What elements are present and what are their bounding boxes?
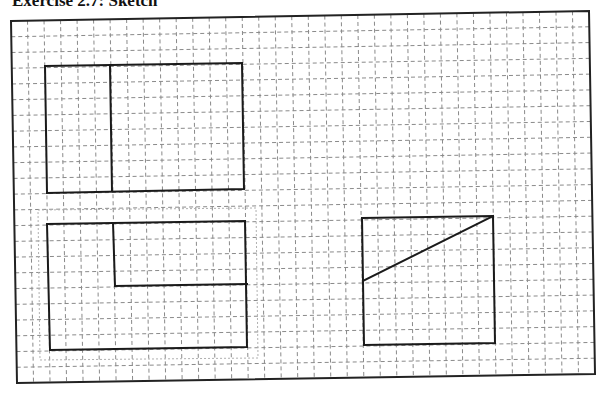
- grid-line-vertical: [473, 13, 479, 376]
- grid-line-horizontal: [14, 169, 592, 179]
- grid-line-horizontal: [15, 279, 593, 288]
- grid-line-horizontal: [12, 74, 590, 84]
- grid-line-vertical: [209, 18, 215, 380]
- grid-line-vertical: [374, 15, 380, 378]
- grid-line-horizontal: [17, 358, 595, 367]
- grid-line-vertical: [572, 11, 578, 374]
- grid-line-vertical: [160, 18, 166, 380]
- grid-line-vertical: [457, 13, 463, 376]
- grid-line-horizontal: [13, 153, 591, 163]
- grid-line-vertical: [440, 14, 446, 377]
- grid-line-horizontal: [13, 121, 591, 131]
- grid-line-horizontal: [16, 311, 594, 320]
- dashed-grid: [11, 11, 594, 382]
- shape-inner-line: [110, 65, 112, 191]
- grid-line-horizontal: [15, 232, 593, 241]
- grid-line-vertical: [556, 12, 562, 375]
- grid-line-horizontal: [12, 90, 590, 100]
- grid-line-vertical: [226, 17, 232, 379]
- grid-line-horizontal: [13, 137, 591, 147]
- grid-line-vertical: [176, 18, 182, 380]
- grid-line-vertical: [28, 21, 34, 383]
- grid-line-vertical: [539, 12, 545, 375]
- shape-inner-line: [113, 223, 115, 286]
- grid-line-vertical: [61, 20, 67, 382]
- grid-line-vertical: [523, 12, 529, 375]
- grid-line-vertical: [308, 16, 314, 379]
- grid-line-vertical: [259, 17, 265, 379]
- grid-line-horizontal: [12, 58, 590, 68]
- grid-line-horizontal: [14, 200, 592, 209]
- grid-line-vertical: [391, 14, 397, 377]
- grid-line-horizontal: [16, 327, 594, 336]
- grid-line-vertical: [325, 16, 331, 379]
- grid-line-horizontal: [14, 216, 592, 225]
- grid-line-vertical: [424, 14, 430, 377]
- grid-line-vertical: [407, 14, 413, 377]
- grid-line-horizontal: [12, 43, 590, 53]
- grid-line-vertical: [77, 20, 83, 382]
- grid-line-vertical: [506, 12, 512, 375]
- grid-line-horizontal: [16, 295, 594, 304]
- grid-line-vertical: [341, 15, 347, 378]
- shapes-layer: [38, 63, 495, 360]
- grid-line-vertical: [94, 20, 100, 382]
- shape-inner-line: [115, 284, 247, 286]
- grid-line-vertical: [292, 16, 298, 378]
- grid-line-vertical: [127, 19, 133, 381]
- grid-line-horizontal: [13, 106, 591, 116]
- grid-line-vertical: [275, 16, 281, 378]
- grid-line-horizontal: [15, 264, 593, 273]
- shape-inner-line: [363, 216, 493, 281]
- grid-sheet: [0, 0, 605, 396]
- grid-line-horizontal: [11, 27, 589, 37]
- grid-line-vertical: [193, 18, 199, 380]
- grid-line-horizontal: [15, 248, 593, 257]
- grid-line-vertical: [143, 19, 149, 381]
